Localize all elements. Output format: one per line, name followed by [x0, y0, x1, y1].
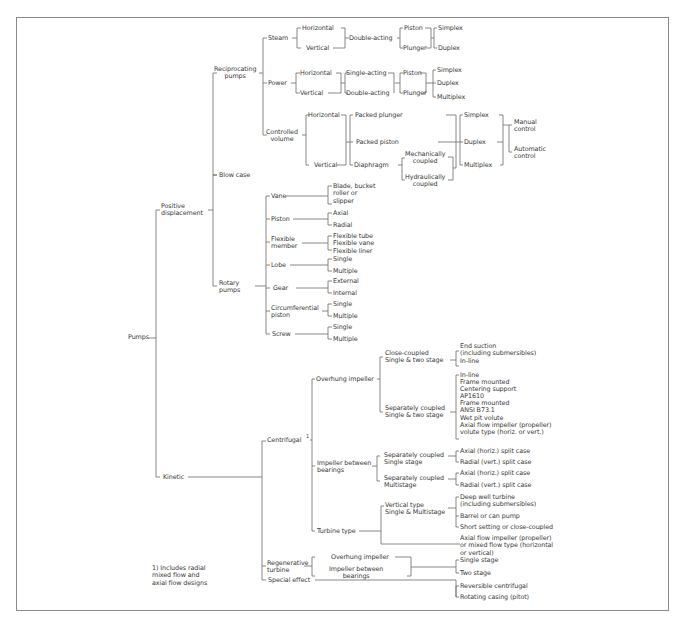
node-power-duplex: Duplex — [437, 80, 459, 87]
node-flexible-member: Flexible member — [271, 236, 297, 251]
node-power-double-acting: Double-acting — [346, 90, 389, 97]
node-cv-horizontal: Horizontal — [308, 112, 340, 119]
node-impeller-between-bearings: Impeller between bearings — [317, 460, 371, 475]
node-cv-duplex: Duplex — [464, 139, 486, 146]
node-power-plunger: Plunger — [403, 90, 427, 97]
node-cv-mechanically-coupled: Mechanically coupled — [405, 151, 445, 166]
footnote-marker: 1 — [306, 433, 309, 440]
node-power: Power — [268, 80, 287, 87]
node-regenerative-turbine: Regenerative turbine — [267, 560, 308, 575]
node-kinetic: Kinetic — [163, 474, 184, 481]
node-rotary-piston-radial: Radial — [333, 222, 352, 229]
node-steam-simplex: Simplex — [438, 25, 463, 32]
node-power-vertical: Vertical — [300, 90, 323, 97]
node-reciprocating-pumps: Reciprocating pumps — [214, 66, 256, 81]
node-close-coupled: Close-coupled Single & two stage — [385, 350, 443, 365]
node-circumferential-piston: Circumferential piston — [271, 305, 319, 320]
node-cv-multiplex: Multiplex — [464, 162, 492, 169]
node-overhung-impeller: Overhung impeller — [316, 376, 374, 383]
node-cv-packed-piston: Packed piston — [356, 139, 399, 146]
node-rotary-piston-axial: Axial — [333, 210, 348, 217]
node-cv-packed-plunger: Packed plunger — [355, 112, 403, 119]
node-bb-single-radial: Radial (vert.) split case — [460, 459, 531, 466]
node-flexible-types: Flexible tube Flexible vane Flexible lin… — [333, 233, 374, 255]
node-turbine-type: Turbine type — [317, 528, 356, 535]
node-lobe-multiple: Multiple — [333, 268, 358, 275]
node-circ-multiple: Multiple — [333, 313, 358, 320]
node-steam-vertical: Vertical — [306, 45, 329, 52]
node-cv-manual-control: Manual control — [514, 119, 537, 134]
node-screw-single: Single — [333, 324, 352, 331]
footnote: 1) Includes radial mixed flow and axial … — [152, 565, 207, 587]
node-bb-multi-axial: Axial (horiz.) split case — [460, 470, 530, 477]
node-bb-multi-radial: Radial (vert.) split case — [460, 482, 531, 489]
node-vertical-type: Vertical type Single & Multistage — [385, 502, 445, 517]
node-cv-hydraulically-coupled: Hydraulically coupled — [405, 174, 445, 189]
node-barrel-can-pump: Barrel or can pump — [460, 513, 520, 520]
node-bb-single-axial: Axial (horiz.) split case — [460, 448, 530, 455]
node-rotary-pumps: Rotary pumps — [219, 280, 240, 295]
node-cv-automatic-control: Automatic control — [514, 146, 546, 161]
node-regen-single-stage: Single stage — [460, 557, 498, 564]
node-steam-piston: Piston — [404, 25, 423, 32]
node-circ-single: Single — [333, 301, 352, 308]
node-gear-internal: Internal — [333, 290, 357, 297]
node-vane-types: Blade, bucket roller or slipper — [333, 183, 375, 205]
node-separately-coupled-types: In-line Frame mounted Centering support … — [460, 372, 551, 436]
node-cv-simplex: Simplex — [464, 112, 489, 119]
node-pumps: Pumps — [128, 334, 149, 341]
node-steam-horizontal: Horizontal — [302, 25, 334, 32]
node-rotary-piston: Piston — [271, 216, 290, 223]
node-special-effect: Special effect — [268, 577, 310, 584]
node-gear: Gear — [273, 285, 288, 292]
node-lobe-single: Single — [333, 256, 352, 263]
node-steam-plunger: Plunger — [403, 45, 427, 52]
node-bb-single-stage: Separately coupled Single stage — [384, 452, 444, 467]
node-blow-case: Blow case — [219, 172, 250, 179]
node-screw-multiple: Multiple — [333, 336, 358, 343]
node-axial-mixed-flow: Axial flow impeller (propeller) or mixed… — [460, 535, 553, 557]
node-screw: Screw — [272, 331, 291, 338]
node-power-multiplex: Multiplex — [437, 94, 465, 101]
node-rotating-casing: Rotating casing (pitot) — [460, 594, 529, 601]
node-steam: Steam — [268, 35, 288, 42]
node-separately-coupled: Separately coupled Single & two stage — [385, 405, 445, 420]
node-centrifugal: Centrifugal — [267, 437, 301, 444]
node-regen-overhung: Overhung impeller — [331, 554, 389, 561]
node-lobe: Lobe — [271, 262, 286, 269]
node-steam-duplex: Duplex — [438, 45, 460, 52]
node-regen-two-stage: Two stage — [460, 570, 491, 577]
node-bb-multistage: Separately coupled Multistage — [384, 475, 444, 490]
node-short-setting: Short setting or close-coupled — [460, 524, 553, 531]
node-power-simplex: Simplex — [437, 67, 462, 74]
node-steam-double-acting: Double-acting — [349, 35, 392, 42]
node-regen-between-bearings: Impeller between bearings — [329, 566, 383, 581]
node-reversible-centrifugal: Reversible centrifugal — [460, 583, 528, 590]
node-power-single-acting: Single-acting — [346, 70, 386, 77]
node-positive-displacement: Positive displacement — [161, 203, 203, 218]
node-cv-vertical: Vertical — [314, 162, 337, 169]
node-deep-well-turbine: Deep well turbine (including submersible… — [460, 494, 536, 509]
node-gear-external: External — [333, 278, 359, 285]
node-power-piston: Piston — [403, 70, 422, 77]
node-cv-diaphragm: Diaphragm — [354, 162, 389, 169]
node-power-horizontal: Horizontal — [300, 70, 332, 77]
node-close-coupled-types: End suction (including submersibles) In-… — [460, 343, 536, 365]
node-controlled-volume: Controlled volume — [266, 129, 298, 144]
node-vane: Vane — [271, 193, 286, 200]
